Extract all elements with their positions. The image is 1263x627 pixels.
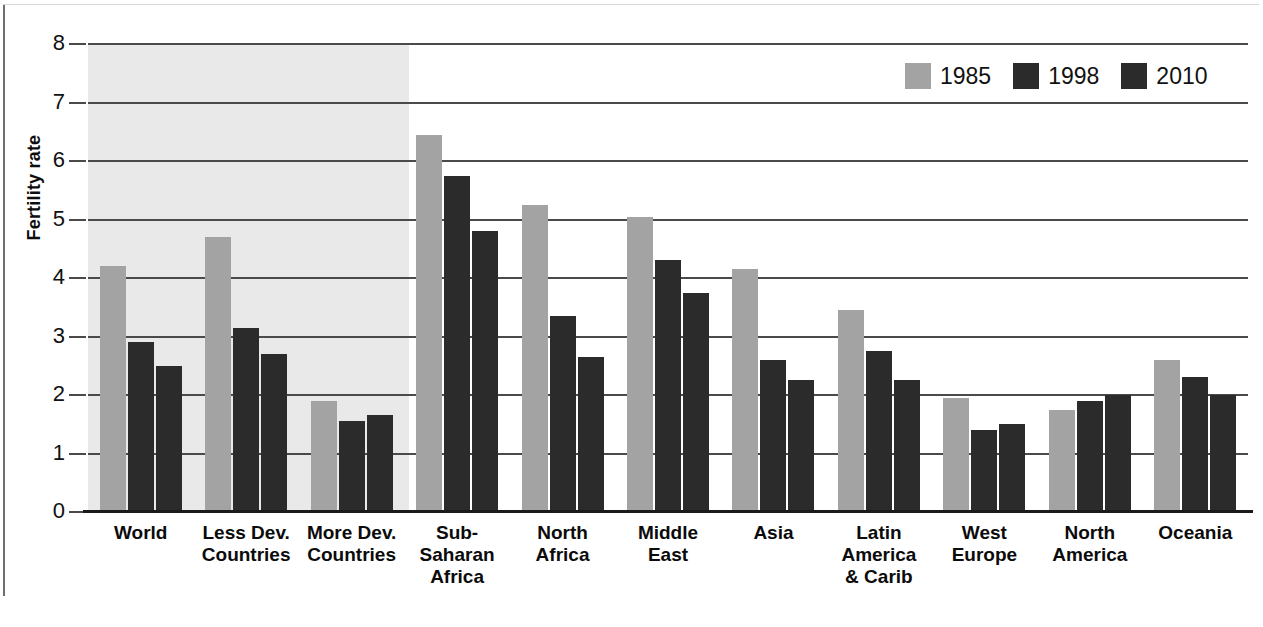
- bar: [311, 401, 337, 512]
- bar: [367, 415, 393, 512]
- bar: [233, 328, 259, 512]
- bar: [943, 398, 969, 512]
- bar: [655, 260, 681, 512]
- y-tick-label: 7: [25, 91, 65, 113]
- bar-group: [100, 44, 182, 512]
- y-tick-mark: [69, 336, 86, 338]
- bar-group: [943, 44, 1025, 512]
- y-tick-label: 0: [25, 500, 65, 522]
- fertility-rate-bar-chart: Fertility rate 1985 1998 2010 876543210 …: [0, 0, 1263, 627]
- y-tick-label: 1: [25, 442, 65, 464]
- bar-group: [205, 44, 287, 512]
- bar-group: [416, 44, 498, 512]
- bar-group: [838, 44, 920, 512]
- bar: [128, 342, 154, 512]
- x-axis-baseline: [83, 510, 1253, 513]
- x-tick-label: Oceania: [1125, 522, 1263, 544]
- y-tick-mark: [69, 277, 86, 279]
- bar: [894, 380, 920, 512]
- bar: [578, 357, 604, 512]
- y-tick-label: 5: [25, 208, 65, 230]
- y-tick-mark: [69, 453, 86, 455]
- bar: [788, 380, 814, 512]
- figure-frame-top-edge: [3, 4, 1259, 5]
- bar: [760, 360, 786, 512]
- bar: [1049, 410, 1075, 512]
- bar-group: [311, 44, 393, 512]
- y-tick-label: 2: [25, 383, 65, 405]
- bar: [416, 135, 442, 512]
- bar: [472, 231, 498, 512]
- bar: [1105, 395, 1131, 512]
- bar: [205, 237, 231, 512]
- bar: [100, 266, 126, 512]
- y-tick-mark: [69, 102, 86, 104]
- bar: [444, 176, 470, 512]
- bar: [866, 351, 892, 512]
- plot-area: 876543210 WorldLess Dev. CountriesMore D…: [88, 44, 1248, 512]
- bar: [550, 316, 576, 512]
- bar: [838, 310, 864, 512]
- bar: [732, 269, 758, 512]
- y-tick-label: 4: [25, 266, 65, 288]
- y-tick-label: 6: [25, 149, 65, 171]
- y-tick-label: 8: [25, 32, 65, 54]
- bar-group: [1049, 44, 1131, 512]
- bar: [339, 421, 365, 512]
- bar: [1154, 360, 1180, 512]
- bar: [971, 430, 997, 512]
- y-tick-label: 3: [25, 325, 65, 347]
- bar-group: [627, 44, 709, 512]
- y-tick-mark: [69, 394, 86, 396]
- bar: [156, 366, 182, 512]
- bar: [999, 424, 1025, 512]
- bar: [1210, 395, 1236, 512]
- bar-group: [1154, 44, 1236, 512]
- bar-group: [732, 44, 814, 512]
- bar: [627, 217, 653, 512]
- figure-frame-left-edge: [3, 4, 5, 596]
- bar: [261, 354, 287, 512]
- bar: [522, 205, 548, 512]
- bar: [1077, 401, 1103, 512]
- bar-group: [522, 44, 604, 512]
- y-tick-mark: [69, 160, 86, 162]
- bar: [683, 293, 709, 512]
- bar: [1182, 377, 1208, 512]
- y-tick-mark: [69, 219, 86, 221]
- y-tick-mark: [69, 43, 86, 45]
